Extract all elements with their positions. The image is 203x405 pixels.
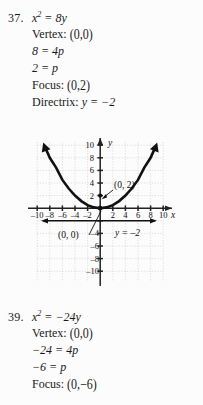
x-tick-2: 2 <box>111 210 115 220</box>
focus-label: Focus: <box>32 78 64 92</box>
problem-39-number: 39. <box>8 310 32 325</box>
y-tick--10: –10 <box>85 266 99 276</box>
vertex-label: Vertex: <box>32 326 67 340</box>
equation-right-side: = −24y <box>44 310 81 324</box>
problem-37-equation: x2 = 8y <box>32 10 67 26</box>
vertex-label: Vertex: <box>32 27 67 41</box>
problem-39-heading: 39. x2 = −24y <box>0 309 203 325</box>
problem-37-number: 37. <box>8 11 32 26</box>
y-tick-2: 2 <box>90 191 94 201</box>
x-tick-labels: –10 –8 –6 –4 –2 2 4 6 8 10 x <box>30 210 176 220</box>
problem-37-heading: 37. x2 = 8y <box>0 10 203 26</box>
step-2-equals-p: 2 = p <box>32 60 203 77</box>
y-axis-arrow <box>97 138 103 145</box>
focus-annotation-arrow <box>102 194 108 199</box>
problem-37: 37. x2 = 8y Vertex: (0,0) 8 = 4p 2 = p F… <box>0 10 203 111</box>
directrix-line: Directrix: y = −2 <box>32 94 203 111</box>
x-tick--10: –10 <box>30 210 44 220</box>
vertex-value: (0,0) <box>70 323 93 343</box>
y-tick-8: 8 <box>90 153 94 163</box>
y-tick--6: –6 <box>90 241 100 251</box>
problem-39: 39. x2 = −24y Vertex: (0,0) −24 = 4p −6 … <box>0 309 203 393</box>
directrix-label: Directrix: <box>32 95 79 109</box>
worksheet-page: 37. x2 = 8y Vertex: (0,0) 8 = 4p 2 = p F… <box>0 0 203 405</box>
x-tick--4: –4 <box>70 210 80 220</box>
step-1-value: 8 = 4p <box>32 44 64 58</box>
step--24-equals-4p: −24 = 4p <box>32 342 203 359</box>
step-2-value: −6 = p <box>32 360 66 374</box>
vertex-point <box>98 206 103 211</box>
y-tick--4: –4 <box>90 228 100 238</box>
focus-value: (0,−6) <box>67 374 97 394</box>
y-tick-10: 10 <box>86 140 95 150</box>
step--6-equals-p: −6 = p <box>32 359 203 376</box>
focus-annotation: (0, 2) <box>102 180 135 199</box>
vertex-annotation-text: (0, 0) <box>58 230 79 241</box>
equation-exponent: 2 <box>37 10 41 19</box>
problem-37-steps: Vertex: (0,0) 8 = 4p 2 = p Focus: (0,2) … <box>0 26 203 111</box>
x-tick--8: –8 <box>45 210 55 220</box>
directrix-value: y = −2 <box>82 95 116 109</box>
y-axis-label: y <box>107 138 113 148</box>
x-tick-10: 10 <box>159 210 168 220</box>
x-tick-4: 4 <box>123 210 128 220</box>
focus-value: (0,2) <box>67 75 90 95</box>
focus-line: Focus: (0,2) <box>32 77 203 94</box>
x-tick-6: 6 <box>136 210 140 220</box>
directrix-right-arrow <box>150 218 157 223</box>
vertex-line: Vertex: (0,0) <box>32 325 203 342</box>
y-tick--8: –8 <box>90 254 100 264</box>
equation-exponent: 2 <box>37 309 41 318</box>
problem-39-steps: Vertex: (0,0) −24 = 4p −6 = p Focus: (0,… <box>0 325 203 393</box>
focus-label: Focus: <box>32 377 64 391</box>
step-2-value: 2 = p <box>32 61 58 75</box>
graph-svg: –10 –8 –6 –4 –2 2 4 6 8 10 x 10 8 6 4 2 … <box>0 130 203 288</box>
focus-line: Focus: (0,−6) <box>32 376 203 393</box>
vertex-line: Vertex: (0,0) <box>32 26 203 43</box>
focus-point <box>98 194 102 198</box>
step-1-value: −24 = 4p <box>32 343 78 357</box>
parabola-graph: –10 –8 –6 –4 –2 2 4 6 8 10 x 10 8 6 4 2 … <box>0 130 203 288</box>
x-axis-label: x <box>170 210 176 220</box>
vertex-value: (0,0) <box>70 24 93 44</box>
directrix-annotation-text: y = –2 <box>114 228 140 238</box>
y-tick-6: 6 <box>90 165 94 175</box>
equation-right-side: = 8y <box>44 11 66 25</box>
x-tick--2: –2 <box>82 210 92 220</box>
x-tick--6: –6 <box>57 210 67 220</box>
focus-annotation-text: (0, 2) <box>114 180 135 191</box>
step-8-equals-4p: 8 = 4p <box>32 43 203 60</box>
